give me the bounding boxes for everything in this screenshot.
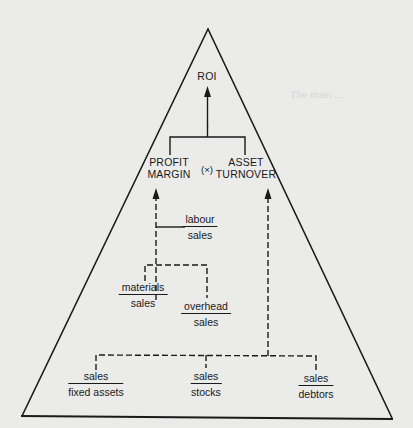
ratio-sales-stocks: sales stocks <box>191 370 222 398</box>
ratio-denominator: sales <box>182 227 217 241</box>
ratio-materials-sales: materials sales <box>119 281 168 309</box>
ratio-denominator: fixed assets <box>68 384 123 398</box>
ratio-numerator: labour <box>182 213 217 227</box>
ratio-sales-fixed-assets: sales fixed assets <box>68 370 123 398</box>
asset-turnover-line1: ASSET <box>228 156 263 168</box>
ratio-numerator: sales <box>298 372 333 386</box>
profit-margin-line2: MARGIN <box>147 168 190 180</box>
asset-ratios-bracket <box>96 355 316 370</box>
ratio-denominator: stocks <box>191 384 222 398</box>
ratio-labour-sales: labour sales <box>182 213 217 241</box>
ratio-denominator: debtors <box>298 386 333 400</box>
ratio-numerator: sales <box>68 370 123 384</box>
ratio-numerator: sales <box>191 370 222 384</box>
profit-margin-line1: PROFIT <box>149 156 189 168</box>
ratio-numerator: materials <box>119 281 168 295</box>
primary-bracket <box>170 126 245 155</box>
ratio-numerator: overhead <box>181 300 231 314</box>
ratio-sales-debtors: sales debtors <box>298 372 333 400</box>
profit-margin-label: PROFIT MARGIN <box>147 156 190 180</box>
asset-turnover-line2: TURNOVER <box>216 168 277 180</box>
multiply-operator: (×) <box>201 164 213 176</box>
ratio-denominator: sales <box>181 314 231 328</box>
asset-turnover-label: ASSET TURNOVER <box>216 156 277 180</box>
roi-label: ROI <box>197 70 216 82</box>
roi-arrow <box>204 86 211 127</box>
asset-turnover-dashed-arrow <box>265 188 272 356</box>
ratio-overhead-sales: overhead sales <box>181 300 231 328</box>
ratio-denominator: sales <box>119 295 168 309</box>
